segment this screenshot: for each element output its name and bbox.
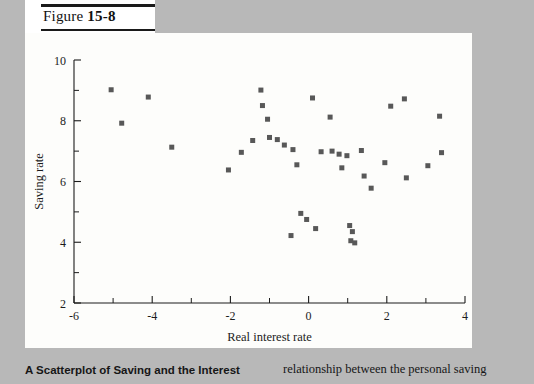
data-point bbox=[290, 147, 295, 152]
x-tick-label: -6 bbox=[69, 309, 79, 323]
data-point bbox=[359, 148, 364, 153]
x-tick-label: 2 bbox=[384, 309, 390, 323]
data-point bbox=[304, 217, 309, 222]
data-point bbox=[265, 117, 270, 122]
data-point bbox=[369, 186, 374, 191]
data-point bbox=[169, 145, 174, 150]
caption-title: A Scatterplot of Saving and the Interest bbox=[25, 363, 275, 377]
data-point bbox=[337, 152, 342, 157]
x-tick-label: 0 bbox=[306, 309, 312, 323]
data-point bbox=[294, 162, 299, 167]
data-point bbox=[382, 160, 387, 165]
figure-label-number: 15-8 bbox=[87, 8, 115, 24]
data-point bbox=[250, 138, 255, 143]
data-point bbox=[275, 137, 280, 142]
data-point bbox=[146, 95, 151, 100]
data-point bbox=[282, 143, 287, 148]
data-point bbox=[437, 114, 442, 119]
data-point bbox=[362, 174, 367, 179]
plot-panel: 246810-6-4-2024Real interest rateSaving … bbox=[25, 33, 472, 348]
figure-caption: A Scatterplot of Saving and the Interest… bbox=[0, 348, 534, 384]
data-point bbox=[310, 95, 315, 100]
header-rule-bottom bbox=[41, 29, 155, 31]
figure-header: Figure 15-8 bbox=[25, 0, 155, 33]
data-point bbox=[402, 96, 407, 101]
figure-label: Figure 15-8 bbox=[43, 8, 116, 25]
y-tick-label: 4 bbox=[60, 236, 66, 250]
x-axis-title: Real interest rate bbox=[227, 330, 312, 344]
y-tick-label: 8 bbox=[60, 114, 66, 128]
data-point bbox=[319, 149, 324, 154]
data-point bbox=[260, 103, 265, 108]
data-point bbox=[352, 240, 357, 245]
data-point bbox=[109, 87, 114, 92]
data-point bbox=[298, 211, 303, 216]
data-point bbox=[330, 149, 335, 154]
data-point bbox=[226, 167, 231, 172]
data-point bbox=[350, 229, 355, 234]
x-tick-label: -2 bbox=[225, 309, 235, 323]
data-point bbox=[404, 175, 409, 180]
data-point bbox=[344, 153, 349, 158]
y-tick-label: 10 bbox=[54, 54, 66, 68]
data-point bbox=[347, 223, 352, 228]
data-point bbox=[267, 135, 272, 140]
scatterplot-chart: 246810-6-4-2024Real interest rateSaving … bbox=[25, 33, 472, 348]
figure-label-prefix: Figure bbox=[43, 8, 87, 24]
data-point bbox=[339, 165, 344, 170]
data-point bbox=[439, 150, 444, 155]
data-point bbox=[119, 121, 124, 126]
chart-svg: 246810-6-4-2024Real interest rateSaving … bbox=[25, 33, 472, 348]
data-point bbox=[425, 163, 430, 168]
data-point bbox=[313, 226, 318, 231]
data-point bbox=[388, 104, 393, 109]
y-axis-title: Saving rate bbox=[32, 153, 46, 210]
data-point bbox=[239, 150, 244, 155]
data-points-group bbox=[109, 87, 444, 245]
x-tick-label: -4 bbox=[147, 309, 157, 323]
y-tick-label: 2 bbox=[60, 297, 66, 311]
data-point bbox=[328, 115, 333, 120]
caption-body-text: relationship between the personal saving bbox=[283, 362, 533, 377]
header-rule-top bbox=[41, 4, 155, 7]
x-tick-label: 4 bbox=[462, 309, 468, 323]
data-point bbox=[289, 233, 294, 238]
data-point bbox=[258, 88, 263, 93]
y-tick-label: 6 bbox=[60, 175, 66, 189]
